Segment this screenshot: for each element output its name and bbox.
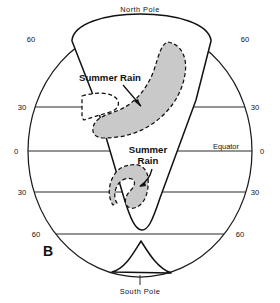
lat-label-right-30s: 30	[251, 188, 259, 197]
hypothetical-continent-map: North Pole Summer Rain Su	[0, 0, 280, 303]
lat-label-left-60s: 60	[32, 230, 40, 239]
lat-label-left-60n: 60	[27, 35, 35, 44]
lat-label-right-60n: 60	[241, 35, 249, 44]
figure-container: North Pole Summer Rain Su	[0, 0, 280, 303]
equator-label: Equator	[213, 142, 239, 151]
lat-label-left-30n: 30	[18, 103, 26, 112]
lat-label-right-60s: 60	[236, 230, 244, 239]
panel-label: B	[43, 243, 53, 259]
lat-label-right-30n: 30	[251, 103, 259, 112]
summer-rain-label-north: Summer Rain	[79, 72, 141, 83]
lat-label-right-0: 0	[260, 147, 264, 156]
lat-label-left-30s: 30	[18, 188, 26, 197]
lat-label-left-0: 0	[14, 147, 18, 156]
south-pole-label: South Pole	[120, 287, 161, 296]
summer-rain-label-south-line2: Rain	[138, 155, 159, 166]
north-pole-label: North Pole	[120, 5, 159, 14]
summer-rain-label-south-line1: Summer	[129, 144, 168, 155]
